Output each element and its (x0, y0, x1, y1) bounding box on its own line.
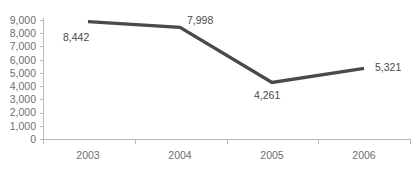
x-tick-label: 2003 (76, 149, 100, 161)
data-point-label: 8,442 (63, 31, 89, 43)
data-point-label: 4,261 (254, 89, 280, 101)
y-tick-label: 1,000 (10, 120, 36, 132)
x-tick-label: 2005 (260, 149, 284, 161)
data-point-label: 7,998 (187, 14, 213, 26)
series-line-path (88, 22, 364, 83)
y-tick-label: 7,000 (10, 40, 36, 52)
y-tick-label: 4,000 (10, 80, 36, 92)
y-axis: 9,0008,0007,0006,0005,0004,0003,0002,000… (10, 14, 44, 145)
y-axis-tick-marks (40, 21, 44, 140)
y-tick-label: 2,000 (10, 106, 36, 118)
line-chart-figure: 9,0008,0007,0006,0005,0004,0003,0002,000… (0, 0, 418, 171)
y-tick-label: 8,000 (10, 27, 36, 39)
y-tick-label: 0 (30, 133, 36, 145)
x-tick-label: 2004 (168, 149, 192, 161)
data-series-group (88, 22, 364, 83)
y-axis-tick-labels: 9,0008,0007,0006,0005,0004,0003,0002,000… (10, 14, 36, 145)
y-tick-label: 6,000 (10, 54, 36, 66)
x-axis: 2003200420052006 (44, 140, 411, 162)
chart-canvas: 9,0008,0007,0006,0005,0004,0003,0002,000… (0, 0, 418, 171)
x-axis-tick-labels: 2003200420052006 (76, 149, 376, 161)
y-tick-label: 3,000 (10, 93, 36, 105)
x-tick-label: 2006 (352, 149, 376, 161)
y-tick-label: 5,000 (10, 67, 36, 79)
data-point-label: 5,321 (375, 61, 401, 73)
y-tick-label: 9,000 (10, 14, 36, 26)
x-axis-tick-marks (44, 140, 411, 144)
